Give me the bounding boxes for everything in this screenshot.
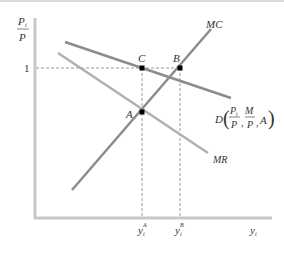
svg-text:i: i	[236, 111, 238, 117]
svg-text:A: A	[142, 222, 147, 228]
comma-1: ,	[241, 117, 244, 128]
svg-text:i: i	[180, 231, 182, 237]
right-paren: )	[268, 107, 275, 130]
point-a-label: A	[125, 108, 133, 120]
point-a	[140, 110, 145, 115]
svg-text:P: P	[18, 31, 26, 43]
comma-2: ,	[256, 117, 259, 128]
monopolistic-competition-diagram: C B A MC MR D ( P i P , M P , A ) P i P …	[0, 0, 284, 253]
svg-text:B: B	[180, 222, 184, 228]
left-paren: (	[223, 107, 230, 130]
demand-curve	[65, 42, 231, 98]
point-c-label: C	[138, 52, 146, 64]
x-axis-label: y i	[249, 224, 257, 237]
svg-text:A: A	[259, 114, 267, 126]
mr-label: MR	[212, 154, 227, 165]
svg-text:i: i	[25, 22, 27, 28]
demand-label: D ( P i P , M P , A )	[214, 105, 275, 130]
svg-text:M: M	[244, 105, 254, 116]
point-b-label: B	[173, 52, 180, 64]
point-b	[178, 66, 183, 71]
y-tick-one: 1	[24, 62, 30, 74]
svg-text:i: i	[143, 231, 145, 237]
point-c	[140, 66, 145, 71]
x-tick-ya: y i A	[137, 222, 147, 237]
svg-text:P: P	[230, 119, 237, 130]
mc-label: MC	[205, 18, 223, 30]
svg-text:D: D	[214, 113, 223, 125]
svg-text:P: P	[246, 119, 253, 130]
svg-text:i: i	[255, 231, 257, 237]
y-axis-label: P i P	[17, 15, 29, 43]
x-tick-yb: y i B	[174, 222, 184, 237]
svg-text:P: P	[17, 15, 25, 27]
